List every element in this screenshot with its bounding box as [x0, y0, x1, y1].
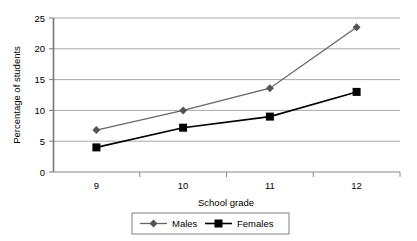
x-tick-label-11: 11	[265, 180, 275, 191]
x-axis-title: School grade	[198, 197, 254, 208]
y-tick-label-0: 0	[40, 167, 45, 178]
x-tick-label-9: 9	[94, 180, 99, 191]
y-tick-label-10: 10	[34, 105, 45, 116]
x-tick-label-12: 12	[351, 180, 362, 191]
y-axis-ticks	[49, 18, 53, 172]
legend-item-females[interactable]: Females	[205, 218, 274, 229]
x-tick-label-10: 10	[178, 180, 189, 191]
y-tick-label-20: 20	[34, 43, 45, 54]
data-point-females-11	[266, 113, 274, 121]
x-axis-ticks	[140, 172, 400, 177]
data-point-females-9	[92, 143, 100, 151]
data-point-females-12	[353, 88, 361, 96]
data-point-females-10	[179, 124, 187, 132]
y-tick-label-15: 15	[34, 74, 45, 85]
legend-label-males: Males	[172, 218, 198, 229]
y-tick-label-25: 25	[34, 13, 45, 24]
line-chart: 25 20 15 10 5 0 Percentage of students 9…	[0, 0, 417, 241]
legend-marker-females-square-icon	[215, 220, 223, 228]
chart-container: 25 20 15 10 5 0 Percentage of students 9…	[0, 0, 417, 241]
legend: Males Females	[132, 213, 289, 234]
legend-label-females: Females	[237, 218, 274, 229]
y-tick-label-5: 5	[40, 136, 45, 147]
y-axis-title: Percentage of students	[11, 46, 22, 144]
